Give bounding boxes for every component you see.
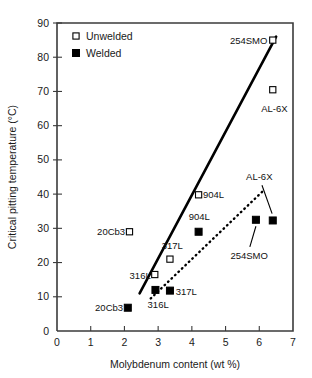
point-unwelded-al6x — [270, 87, 276, 93]
point-unwelded-20cb3 — [126, 229, 132, 235]
x-tick-label-2: 2 — [122, 336, 128, 348]
point-welded-254smo — [252, 216, 259, 223]
legend-marker-welded — [73, 50, 80, 57]
leader-al6x-welded — [262, 185, 272, 213]
x-tick-label-3: 3 — [155, 336, 161, 348]
point-unwelded-317l — [167, 256, 173, 262]
y-tick-label-10: 10 — [37, 290, 49, 302]
y-tick-label-20: 20 — [37, 256, 49, 268]
point-welded-20cb3 — [124, 304, 131, 311]
y-tick-label-0: 0 — [43, 325, 49, 337]
label-unwelded-20cb3: 20Cb3 — [97, 226, 125, 237]
x-tick-label-5: 5 — [223, 336, 229, 348]
label-unwelded-316l: 316L — [130, 270, 151, 281]
label-welded-316l: 316L — [148, 299, 169, 310]
label-welded-al6x: AL-6X — [246, 171, 273, 182]
x-tick-label-0: 0 — [54, 336, 60, 348]
y-tick-label-40: 40 — [37, 188, 49, 200]
legend: UnweldedWelded — [73, 30, 133, 59]
x-axis-ticks: 01234567 — [54, 326, 296, 348]
label-unwelded-al6x: AL-6X — [261, 103, 288, 114]
y-tick-label-60: 60 — [37, 119, 49, 131]
label-welded-317l: 317L — [176, 286, 197, 297]
label-welded-904l: 904L — [189, 211, 210, 222]
y-tick-label-50: 50 — [37, 153, 49, 165]
point-welded-904l — [195, 228, 202, 235]
y-tick-label-90: 90 — [37, 17, 49, 29]
legend-label-welded: Welded — [86, 47, 122, 59]
legend-marker-unwelded — [73, 33, 79, 39]
x-tick-label-1: 1 — [88, 336, 94, 348]
y-axis-title: Critical pitting temperature (°C) — [6, 105, 18, 249]
label-welded-254smo: 254SMO — [230, 250, 268, 261]
chart-figure: 01234567 0102030405060708090 20Cb3316L31… — [0, 0, 312, 378]
label-unwelded-254smo: 254SMO — [230, 35, 268, 46]
x-axis-title: Molybdenum content (wt %) — [110, 358, 240, 370]
y-tick-label-30: 30 — [37, 222, 49, 234]
point-welded-317l — [166, 287, 173, 294]
x-tick-label-7: 7 — [290, 336, 296, 348]
y-tick-label-70: 70 — [37, 85, 49, 97]
label-unwelded-904l: 904L — [203, 189, 224, 200]
point-unwelded-254smo — [270, 37, 276, 43]
point-welded-al6x — [269, 217, 276, 224]
y-axis-ticks: 0102030405060708090 — [37, 17, 62, 337]
label-welded-20cb3: 20Cb3 — [95, 302, 123, 313]
point-labels: 20Cb3316L317L904L254SMOAL-6X20Cb3316L317… — [95, 35, 288, 314]
legend-label-unwelded: Unwelded — [86, 30, 133, 42]
x-tick-label-4: 4 — [189, 336, 195, 348]
leader-254smo-welded — [250, 226, 256, 247]
point-welded-316l — [152, 286, 159, 293]
scatter-plot: 01234567 0102030405060708090 20Cb3316L31… — [0, 0, 312, 378]
label-unwelded-317l: 317L — [162, 240, 183, 251]
x-tick-label-6: 6 — [256, 336, 262, 348]
point-unwelded-316l — [152, 271, 158, 277]
y-tick-label-80: 80 — [37, 51, 49, 63]
point-unwelded-904l — [196, 192, 202, 198]
